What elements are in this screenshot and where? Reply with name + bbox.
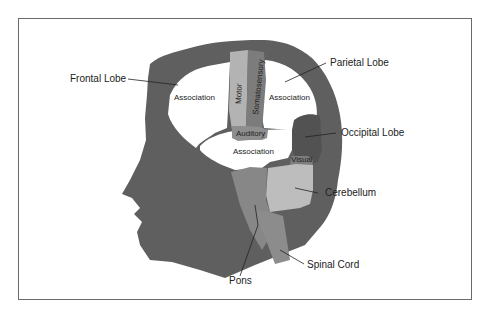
label-frontal-lobe: Frontal Lobe <box>70 73 127 84</box>
cerebellum-region <box>266 164 313 212</box>
text-frontal-association: Association <box>174 93 215 102</box>
text-auditory: Auditory <box>236 129 265 138</box>
label-spinal-cord: Spinal Cord <box>307 259 359 270</box>
brain-diagram: Frontal Lobe Parietal Lobe Occipital Lob… <box>0 0 486 314</box>
text-motor: Motor <box>234 83 244 104</box>
text-temporal-association: Association <box>233 147 274 156</box>
label-pons: Pons <box>229 275 252 286</box>
text-parietal-association: Association <box>269 93 310 102</box>
label-occipital-lobe: Occipital Lobe <box>341 127 405 138</box>
label-parietal-lobe: Parietal Lobe <box>330 57 389 68</box>
label-cerebellum: Cerebellum <box>325 187 376 198</box>
text-visual: Visual <box>291 155 313 164</box>
